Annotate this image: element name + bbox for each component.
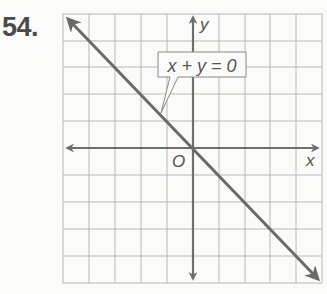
origin-label: O [172, 152, 185, 171]
y-axis-label: y [199, 15, 210, 34]
x-axis-label: x [305, 151, 315, 170]
equation-callout: x + y = 0 [158, 52, 246, 113]
equation-label: x + y = 0 [166, 56, 236, 76]
coordinate-graph: x + y = 0 y x O [0, 0, 327, 294]
